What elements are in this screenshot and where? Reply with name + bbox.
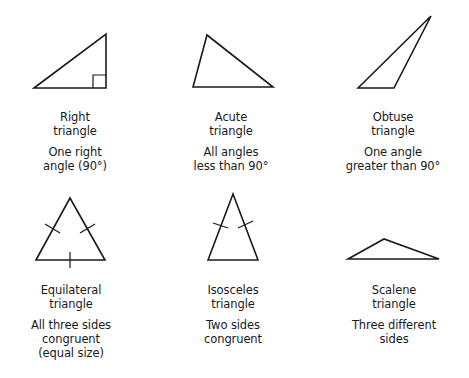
desc-line: Two sides — [158, 318, 308, 332]
caption-equilateral-triangle: Equilateral triangle All three sides con… — [0, 283, 146, 360]
triangle-classification-diagram: Right triangle One right angle (90°) Acu… — [0, 0, 469, 378]
name-line: Equilateral — [0, 283, 146, 297]
right-angle-marker-icon — [93, 75, 106, 88]
desc-line: One right — [0, 145, 150, 159]
acute-triangle-shape — [193, 35, 273, 87]
name-line: triangle — [0, 124, 150, 138]
caption-acute-triangle: Acute triangle All angles less than 90° — [156, 110, 306, 173]
triangle-name: Equilateral triangle — [0, 283, 146, 311]
scalene-triangle-shape — [348, 239, 439, 259]
name-line: triangle — [158, 297, 308, 311]
triangle-description: Two sides congruent — [158, 318, 308, 346]
desc-line: angle (90°) — [0, 159, 150, 173]
desc-line: less than 90° — [156, 159, 306, 173]
obtuse-triangle-shape — [358, 16, 431, 88]
desc-line: congruent — [158, 332, 308, 346]
caption-scalene-triangle: Scalene triangle Three different sides — [319, 283, 469, 346]
name-line: Scalene — [319, 283, 469, 297]
triangle-description: All angles less than 90° — [156, 145, 306, 173]
triangle-name: Obtuse triangle — [318, 110, 468, 138]
name-line: Isosceles — [158, 283, 308, 297]
desc-line: All angles — [156, 145, 306, 159]
congruence-tick-marks-icon — [213, 221, 253, 228]
desc-line: congruent — [0, 332, 146, 346]
triangle-description: One angle greater than 90° — [318, 145, 468, 173]
triangle-name: Right triangle — [0, 110, 150, 138]
caption-isosceles-triangle: Isosceles triangle Two sides congruent — [158, 283, 308, 346]
desc-line: All three sides — [0, 318, 146, 332]
caption-right-triangle: Right triangle One right angle (90°) — [0, 110, 150, 173]
right-triangle-shape — [34, 34, 106, 88]
name-line: triangle — [318, 124, 468, 138]
triangle-name: Acute triangle — [156, 110, 306, 138]
desc-line: One angle — [318, 145, 468, 159]
caption-obtuse-triangle: Obtuse triangle One angle greater than 9… — [318, 110, 468, 173]
equilateral-triangle-shape — [36, 198, 105, 268]
isosceles-triangle-shape — [208, 194, 258, 260]
desc-line: sides — [319, 332, 469, 346]
desc-line: (equal size) — [0, 346, 146, 360]
triangle-description: All three sides congruent (equal size) — [0, 318, 146, 360]
triangle-name: Isosceles triangle — [158, 283, 308, 311]
triangle-name: Scalene triangle — [319, 283, 469, 311]
triangle-description: Three different sides — [319, 318, 469, 346]
desc-line: Three different — [319, 318, 469, 332]
name-line: Obtuse — [318, 110, 468, 124]
name-line: triangle — [156, 124, 306, 138]
name-line: Right — [0, 110, 150, 124]
desc-line: greater than 90° — [318, 159, 468, 173]
name-line: triangle — [0, 297, 146, 311]
triangle-description: One right angle (90°) — [0, 145, 150, 173]
name-line: triangle — [319, 297, 469, 311]
name-line: Acute — [156, 110, 306, 124]
